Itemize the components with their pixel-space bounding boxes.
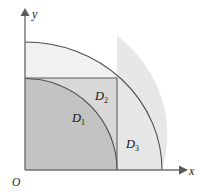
figure-container: y x O D 1 D 2 D 3 [0,0,204,194]
region-d3-label-main: D [125,137,135,151]
x-axis-label: x [188,164,195,178]
region-d2-label-main: D [94,89,104,103]
origin-label: O [12,176,21,188]
region-d2-label-subscript: 2 [104,96,108,105]
quarter-circle-diagram: y x O D 1 D 2 D 3 [0,0,204,194]
y-axis-arrow-icon [21,8,30,16]
region-d3-label-subscript: 3 [135,144,139,153]
x-axis-arrow-icon [179,166,188,175]
region-d1-label-main: D [71,111,81,125]
y-axis-label: y [31,7,38,21]
region-d1-label-subscript: 1 [81,118,85,127]
